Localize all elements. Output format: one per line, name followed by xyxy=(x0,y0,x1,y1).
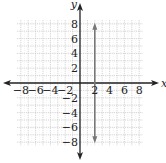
y-tick-label: −4 xyxy=(62,107,78,120)
y-tick-label: 8 xyxy=(71,18,78,31)
x-tick-label: 4 xyxy=(106,84,113,97)
x-tick-label: 2 xyxy=(91,84,98,97)
y-tick-label: 6 xyxy=(71,33,78,46)
x-tick-label: 8 xyxy=(136,84,143,97)
x-tick-label: −6 xyxy=(27,84,43,97)
y-axis-label: y xyxy=(70,0,78,11)
x-tick-label: 6 xyxy=(121,84,128,97)
y-tick-label: 2 xyxy=(71,62,78,75)
y-tick-label: 4 xyxy=(71,47,78,60)
x-tick-label: −8 xyxy=(13,84,29,97)
x-axis-label: x xyxy=(161,77,166,90)
x-tick-label: −4 xyxy=(42,84,58,97)
y-tick-label: −6 xyxy=(62,121,78,134)
coordinate-plane: −8−6−4−224688642−2−4−6−8xy xyxy=(0,0,166,163)
y-tick-label: −8 xyxy=(62,136,78,149)
y-tick-label: −2 xyxy=(62,92,78,105)
